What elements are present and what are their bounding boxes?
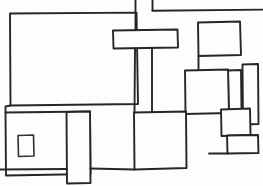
upper-right-panel xyxy=(198,22,241,57)
bottom-baseline-right xyxy=(91,169,135,170)
mid-bottom-panel xyxy=(134,112,187,170)
connector-bar-left-down xyxy=(135,49,136,113)
bottom-narrow-column xyxy=(67,112,91,184)
bottom-right-shelf xyxy=(227,135,259,154)
bottom-baseline-left xyxy=(0,169,67,170)
narrow-tall-left xyxy=(228,70,242,111)
bottom-left-inner-square xyxy=(18,135,34,157)
top-middle-bar xyxy=(113,30,178,49)
top-right-frame-top xyxy=(152,10,263,11)
right-square-panel xyxy=(221,109,251,137)
sketch-drawing xyxy=(0,0,263,186)
sketch-canvas xyxy=(0,0,263,186)
mid-right-panel xyxy=(185,70,229,115)
